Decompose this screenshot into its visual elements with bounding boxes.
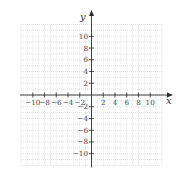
x-tick-label: −6 [51,98,62,107]
x-tick-label: −4 [63,98,74,107]
x-tick-label: −8 [39,98,50,107]
y-tick-label: 2 [83,79,88,88]
y-tick-label: 8 [83,44,88,53]
y-tick-label: 4 [83,67,88,76]
x-tick-label: 6 [124,98,129,107]
coordinate-plane: −10−8−6−4−2246810108642−2−4−6−8−10 x y [0,0,176,176]
y-tick-label: −10 [73,149,89,158]
x-axis-label: x [166,95,172,106]
y-tick-label: 6 [83,55,88,64]
y-axis-label: y [79,11,86,22]
y-axis-arrow-icon [89,10,94,16]
x-tick-label: 8 [136,98,141,107]
x-tick-label: 10 [146,98,156,107]
y-tick-label: −6 [77,126,88,135]
x-tick-label: 4 [113,98,118,107]
y-tick-label: −4 [77,114,88,123]
y-tick-label: −8 [77,137,88,146]
y-tick-label: −2 [77,102,88,111]
x-tick-label: 2 [101,98,106,107]
y-tick-label: 10 [79,32,89,41]
